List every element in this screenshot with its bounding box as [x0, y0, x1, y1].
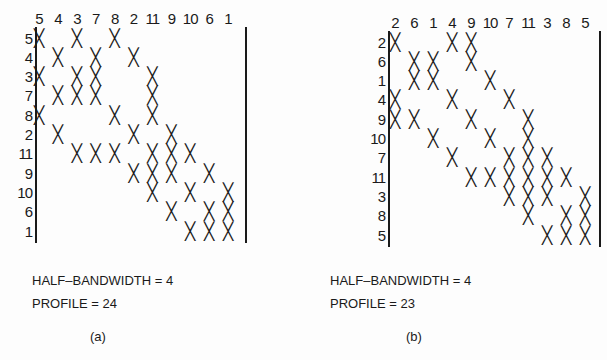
nonzero-mark: ╳ [143, 164, 161, 183]
nonzero-mark: ╳ [462, 33, 480, 52]
column-header: 9 [162, 11, 180, 26]
nonzero-mark: ╳ [519, 168, 537, 187]
matrix-left-border [388, 31, 390, 247]
nonzero-mark: ╳ [481, 71, 499, 90]
nonzero-mark: ╳ [538, 168, 556, 187]
nonzero-mark: ╳ [87, 86, 105, 105]
matrix-right-border [245, 27, 247, 243]
nonzero-mark: ╳ [143, 144, 161, 163]
nonzero-mark: ╳ [125, 48, 143, 67]
nonzero-mark: ╳ [462, 52, 480, 71]
matrix-right-border [599, 31, 601, 247]
matrix-panel-b: 26149107113852╳╳╳6╳╳╳1╳╳╳4╳╳╳9╳╳╳╳10╳╳╳7… [303, 0, 603, 360]
nonzero-mark: ╳ [557, 226, 575, 245]
nonzero-mark: ╳ [481, 129, 499, 148]
sparse-matrix-a: 54378211910615╳╳╳4╳╳╳3╳╳╳╳7╳╳╳╳8╳╳╳2╳╳╳1… [0, 0, 300, 270]
row-header: 4 [363, 90, 385, 109]
nonzero-mark: ╳ [405, 52, 423, 71]
nonzero-mark: ╳ [125, 164, 143, 183]
column-header: 4 [443, 15, 461, 30]
column-header: 3 [68, 11, 86, 26]
nonzero-mark: ╳ [424, 129, 442, 148]
profile-label-b: PROFILE = 23 [330, 295, 415, 313]
nonzero-mark: ╳ [576, 206, 594, 225]
nonzero-mark: ╳ [181, 222, 199, 241]
nonzero-mark: ╳ [30, 67, 48, 86]
nonzero-mark: ╳ [519, 206, 537, 225]
nonzero-mark: ╳ [519, 129, 537, 148]
nonzero-mark: ╳ [143, 67, 161, 86]
nonzero-mark: ╳ [519, 148, 537, 167]
nonzero-mark: ╳ [443, 148, 461, 167]
column-header: 4 [49, 11, 67, 26]
row-header: 11 [363, 168, 385, 187]
nonzero-mark: ╳ [576, 226, 594, 245]
nonzero-mark: ╳ [143, 106, 161, 125]
nonzero-mark: ╳ [87, 67, 105, 86]
nonzero-mark: ╳ [162, 202, 180, 221]
nonzero-mark: ╳ [125, 125, 143, 144]
nonzero-mark: ╳ [538, 226, 556, 245]
nonzero-mark: ╳ [481, 168, 499, 187]
row-header: 11 [10, 144, 32, 163]
half-bandwidth-label-a: HALF–BANDWIDTH = 4 [32, 272, 173, 290]
nonzero-mark: ╳ [87, 144, 105, 163]
panel-label-a: (a) [90, 329, 106, 345]
nonzero-mark: ╳ [405, 71, 423, 90]
column-header: 3 [538, 15, 556, 30]
row-header: 1 [10, 222, 32, 241]
row-header: 5 [10, 29, 32, 48]
nonzero-mark: ╳ [68, 144, 86, 163]
nonzero-mark: ╳ [405, 110, 423, 129]
column-header: 1 [219, 11, 237, 26]
nonzero-mark: ╳ [219, 202, 237, 221]
row-header: 7 [363, 148, 385, 167]
nonzero-mark: ╳ [49, 48, 67, 67]
nonzero-mark: ╳ [143, 183, 161, 202]
column-header: 2 [386, 15, 404, 30]
nonzero-mark: ╳ [443, 90, 461, 109]
column-header: 10 [181, 11, 199, 26]
nonzero-mark: ╳ [49, 125, 67, 144]
column-header: 11 [519, 15, 537, 30]
matrix-left-border [35, 27, 37, 243]
column-header: 5 [576, 15, 594, 30]
nonzero-mark: ╳ [49, 86, 67, 105]
nonzero-mark: ╳ [462, 110, 480, 129]
nonzero-mark: ╳ [538, 148, 556, 167]
nonzero-mark: ╳ [462, 168, 480, 187]
nonzero-mark: ╳ [200, 202, 218, 221]
matrix-panel-a: 54378211910615╳╳╳4╳╳╳3╳╳╳╳7╳╳╳╳8╳╳╳2╳╳╳1… [0, 0, 300, 360]
nonzero-mark: ╳ [106, 29, 124, 48]
nonzero-mark: ╳ [181, 144, 199, 163]
panel-label-b: (b) [406, 329, 422, 345]
column-header: 2 [125, 11, 143, 26]
row-header: 4 [10, 48, 32, 67]
nonzero-mark: ╳ [443, 33, 461, 52]
row-header: 10 [10, 183, 32, 202]
column-header: 1 [424, 15, 442, 30]
nonzero-mark: ╳ [162, 164, 180, 183]
nonzero-mark: ╳ [500, 90, 518, 109]
nonzero-mark: ╳ [500, 148, 518, 167]
row-header: 6 [10, 202, 32, 221]
nonzero-mark: ╳ [200, 164, 218, 183]
nonzero-mark: ╳ [87, 48, 105, 67]
nonzero-mark: ╳ [162, 144, 180, 163]
nonzero-mark: ╳ [424, 52, 442, 71]
column-header: 9 [462, 15, 480, 30]
column-header: 8 [557, 15, 575, 30]
sparse-matrix-b: 26149107113852╳╳╳6╳╳╳1╳╳╳4╳╳╳9╳╳╳╳10╳╳╳7… [303, 0, 607, 270]
nonzero-mark: ╳ [500, 187, 518, 206]
row-header: 6 [363, 52, 385, 71]
nonzero-mark: ╳ [200, 222, 218, 241]
nonzero-mark: ╳ [68, 86, 86, 105]
row-header: 2 [10, 125, 32, 144]
row-header: 3 [10, 67, 32, 86]
nonzero-mark: ╳ [576, 187, 594, 206]
column-header: 7 [87, 11, 105, 26]
nonzero-mark: ╳ [519, 110, 537, 129]
column-header: 5 [30, 11, 48, 26]
nonzero-mark: ╳ [538, 187, 556, 206]
nonzero-mark: ╳ [219, 222, 237, 241]
